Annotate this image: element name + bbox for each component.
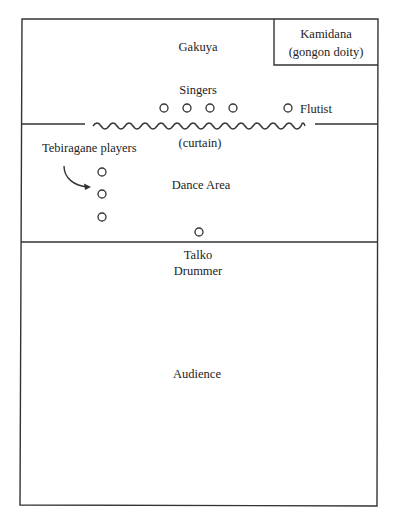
drummer-label-1: Talko (184, 248, 212, 262)
dance-area-label: Dance Area (172, 178, 231, 192)
kamidana-label: Kamidana (300, 27, 352, 41)
curtain-label: (curtain) (178, 136, 221, 150)
gakuya-label: Gakuya (179, 40, 218, 54)
drummer-marker (195, 228, 203, 236)
kamidana-sublabel: (gongon doity) (289, 45, 364, 59)
arrow-head-icon (84, 184, 91, 191)
curtain-wave (93, 123, 305, 129)
singer-marker (183, 104, 191, 112)
tebiragane-marker (98, 213, 106, 221)
singer-marker (229, 104, 237, 112)
stage-diagram: Gakuya Kamidana (gongon doity) Singers F… (0, 0, 398, 522)
tebiragane-marker (98, 190, 106, 198)
tebiragane-label: Tebiragane players (42, 141, 137, 155)
singers-label: Singers (179, 83, 217, 97)
audience-label: Audience (173, 367, 221, 381)
singer-marker (206, 104, 214, 112)
flutist-label: Flutist (300, 102, 332, 116)
tebiragane-marker (98, 168, 106, 176)
drummer-label-2: Drummer (174, 264, 223, 278)
singer-marker (160, 104, 168, 112)
flutist-marker (284, 104, 292, 112)
